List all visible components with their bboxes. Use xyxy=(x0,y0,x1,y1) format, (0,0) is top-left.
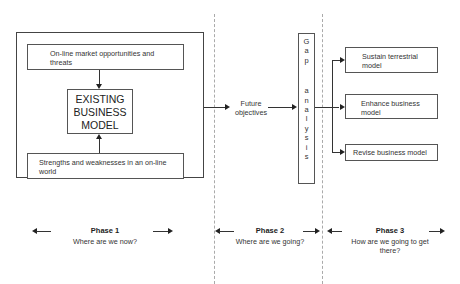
phase2-title: Phase 2 xyxy=(235,226,305,235)
gap-letter: s xyxy=(299,152,314,161)
outcome-bracket xyxy=(332,60,333,152)
phase3-left-arrow-line xyxy=(331,231,342,232)
outcome-revise-text: Revise business model xyxy=(353,148,437,157)
arrowhead-up-icon xyxy=(96,134,102,139)
arrow-threats-to-model xyxy=(99,70,100,85)
outcome-revise: Revise business model xyxy=(345,144,438,161)
arrow-objectives-to-gap xyxy=(268,107,293,108)
outcome-sustain: Sustain terrestrial model xyxy=(345,47,438,73)
gap-letter: p xyxy=(299,56,314,65)
phase2-subtitle: Where are we going? xyxy=(220,237,320,246)
phase-divider-2 xyxy=(322,14,323,284)
phase1-title: Phase 1 xyxy=(70,226,140,235)
outcome-enhance: Enhance business model xyxy=(345,94,438,119)
arrow-gap-to-outcomes xyxy=(315,107,339,108)
phase-divider-1 xyxy=(214,14,215,284)
strengths-text: Strengths and weaknesses in an on-line w… xyxy=(39,158,181,176)
gap-letter: n xyxy=(299,96,314,105)
phase1-right-arrow-icon xyxy=(168,228,173,234)
arrowhead-right-icon xyxy=(292,104,297,110)
existing-model-box: EXISTING BUSINESS MODEL xyxy=(67,89,133,134)
gap-letter: y xyxy=(299,124,314,133)
future-objectives-line-1: Future xyxy=(232,99,270,108)
phase3-title: Phase 3 xyxy=(355,226,425,235)
existing-line-3: MODEL xyxy=(68,119,132,132)
gap-letter: G xyxy=(299,37,314,46)
phase2-right-arrow-icon xyxy=(315,228,320,234)
strengths-box: Strengths and weaknesses in an on-line w… xyxy=(27,153,184,179)
future-objectives-line-2: objectives xyxy=(232,108,270,117)
phase2-left-arrow-line xyxy=(219,231,234,232)
phase1-left-arrow-line xyxy=(36,231,51,232)
arrowhead-right-icon xyxy=(225,104,230,110)
gap-letter: s xyxy=(299,133,314,142)
gap-letter: i xyxy=(299,143,314,152)
phase1-subtitle: Where are we now? xyxy=(55,237,155,246)
phase3-subtitle: How are we going to get there? xyxy=(342,237,438,255)
phase3-right-arrow-icon xyxy=(440,228,445,234)
existing-line-2: BUSINESS xyxy=(68,106,132,119)
gap-letter: a xyxy=(299,46,314,55)
arrow-model-to-objectives xyxy=(204,107,226,108)
outcome-enhance-text: Enhance business model xyxy=(361,99,431,117)
gap-letter: a xyxy=(299,105,314,114)
future-objectives: Future objectives xyxy=(232,99,270,117)
gap-analysis-box: G a p a n a l y s i s xyxy=(298,33,315,184)
existing-line-1: EXISTING xyxy=(68,93,132,106)
arrow-strengths-to-model xyxy=(99,139,100,153)
phase1-right-arrow-line xyxy=(153,231,168,232)
gap-letter xyxy=(299,65,314,86)
threats-box: On-line market opportunities and threats xyxy=(27,44,184,70)
bracket-to-sustain xyxy=(332,60,340,61)
threats-text: On-line market opportunities and threats xyxy=(50,49,170,67)
bracket-to-revise xyxy=(332,152,340,153)
gap-letter: a xyxy=(299,86,314,95)
gap-letter: l xyxy=(299,114,314,123)
outcome-sustain-text: Sustain terrestrial model xyxy=(362,52,432,70)
